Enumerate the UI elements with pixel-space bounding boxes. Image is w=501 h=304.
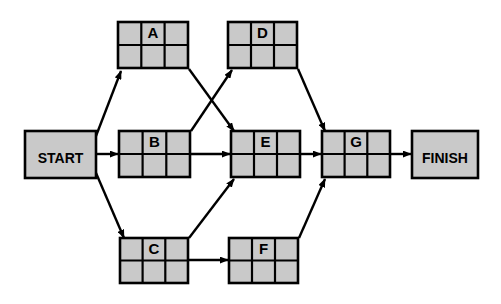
diagram-canvas: START A B C xyxy=(0,0,501,304)
node-e[interactable]: E xyxy=(231,131,300,177)
node-start[interactable]: START xyxy=(25,131,96,178)
node-f[interactable]: F xyxy=(229,238,298,283)
node-b[interactable]: B xyxy=(119,131,190,177)
node-start-label: START xyxy=(38,150,84,166)
node-g[interactable]: G xyxy=(322,131,390,177)
node-c-label: C xyxy=(149,240,160,257)
node-d-label: D xyxy=(257,24,268,41)
node-b-label: B xyxy=(149,133,160,150)
edge-d-g xyxy=(298,69,325,131)
edge-c-e xyxy=(189,179,234,238)
edge-start-c xyxy=(96,173,124,238)
node-a[interactable]: A xyxy=(118,22,188,68)
node-f-label: F xyxy=(259,240,268,257)
network-diagram: START A B C xyxy=(0,0,501,304)
node-finish[interactable]: FINISH xyxy=(412,131,478,178)
node-g-label: G xyxy=(350,133,362,150)
node-e-label: E xyxy=(260,133,270,150)
edge-start-a xyxy=(96,71,121,136)
edge-f-g xyxy=(299,179,325,238)
node-finish-label: FINISH xyxy=(422,150,468,166)
node-a-label: A xyxy=(148,24,159,41)
node-d[interactable]: D xyxy=(228,22,297,68)
node-c[interactable]: C xyxy=(120,238,188,283)
